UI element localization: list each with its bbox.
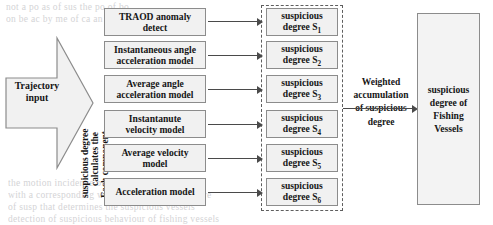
degree-box-1-line1: suspicious xyxy=(281,10,323,21)
arrow-model-6-to-degree-6 xyxy=(208,188,264,197)
model-box-3-line2: acceleration model xyxy=(117,89,194,100)
model-box-instantaneous-velocity[interactable]: Instantanute velocity model xyxy=(104,110,206,138)
degree-box-1-line2: degree S xyxy=(283,21,318,32)
model-box-traod-anomaly-detect[interactable]: TRAOD anomaly detect xyxy=(104,8,206,36)
degree-box-4-line1: suspicious xyxy=(281,112,323,123)
degree-box-1-subscript: 1 xyxy=(318,27,322,35)
suspicious-degree-box-6[interactable]: suspicious degree S6 xyxy=(266,178,338,206)
degree-box-3-subscript: 3 xyxy=(318,94,322,102)
model-box-average-angle-acceleration[interactable]: Average angle acceleration model xyxy=(104,75,206,103)
trajectory-input-line1: Trajectory xyxy=(15,80,59,91)
model-box-5-line2: model xyxy=(142,158,167,169)
model-box-1-line2: detect xyxy=(143,22,168,33)
weighted-line1: Weighted xyxy=(362,77,401,87)
output-box-label: suspicious degree of Fishing Vessels xyxy=(428,83,470,135)
figure-canvas: not a po as of sus the po of bo on be ac… xyxy=(0,0,493,225)
degree-box-3-line2: degree S xyxy=(283,88,318,99)
suspicious-degree-box-2[interactable]: suspicious degree S2 xyxy=(266,41,338,69)
weighted-line2: accumulation xyxy=(354,90,409,100)
model-box-6-line1: Acceleration model xyxy=(115,186,194,197)
suspicious-degree-box-4[interactable]: suspicious degree S4 xyxy=(266,110,338,138)
output-line4: Vessels xyxy=(434,123,462,134)
model-box-acceleration[interactable]: Acceleration model xyxy=(104,178,206,206)
degree-box-2-line1: suspicious xyxy=(281,43,323,54)
degree-box-2-line2: degree S xyxy=(283,54,318,65)
model-box-2-line1: Instantaneous angle xyxy=(114,44,196,55)
trajectory-input-line2: input xyxy=(26,92,48,103)
degree-box-5-subscript: 5 xyxy=(318,163,322,171)
degree-box-6-line2: degree S xyxy=(283,191,318,202)
arrow-model-5-to-degree-5 xyxy=(208,154,264,163)
output-line1: suspicious xyxy=(428,84,470,95)
model-box-4-line1: Instantanute xyxy=(129,113,181,124)
suspicious-degree-box-5[interactable]: suspicious degree S5 xyxy=(266,144,338,172)
model-box-average-velocity[interactable]: Average velocity model xyxy=(104,144,206,172)
arrow-model-3-to-degree-3 xyxy=(208,85,264,94)
degree-box-6-subscript: 6 xyxy=(318,197,322,205)
suspicious-degree-box-3[interactable]: suspicious degree S3 xyxy=(266,75,338,103)
degree-box-4-subscript: 4 xyxy=(318,129,322,137)
output-line2: degree of xyxy=(430,97,467,108)
model-box-instantaneous-angle-acceleration[interactable]: Instantaneous angle acceleration model xyxy=(104,41,206,69)
arrow-model-1-to-degree-1 xyxy=(208,17,264,26)
output-box-suspicious-degree-fishing-vessels[interactable]: suspicious degree of Fishing Vessels xyxy=(417,13,480,205)
arrow-weighted-to-output xyxy=(343,104,419,113)
suspicious-degree-box-1[interactable]: suspicious degree S1 xyxy=(266,8,338,36)
rotated-caption-line2: calculates the xyxy=(90,132,100,186)
model-box-2-line2: acceleration model xyxy=(117,55,194,66)
weighted-accumulation-label: Weighted accumulation of suspicious degr… xyxy=(345,76,417,129)
model-box-5-line1: Average velocity xyxy=(121,147,188,158)
trajectory-input-label: Trajectory input xyxy=(6,80,68,104)
degree-box-4-line2: degree S xyxy=(283,123,318,134)
model-box-1-line1: TRAOD anomaly xyxy=(119,11,191,22)
degree-box-5-line2: degree S xyxy=(283,157,318,168)
bleed-text-bottom-4: detection of suspicious behaviour of fis… xyxy=(8,214,219,224)
model-box-4-line2: velocity model xyxy=(126,124,185,135)
degree-box-6-line1: suspicious xyxy=(281,180,323,191)
arrow-model-4-to-degree-4 xyxy=(208,120,264,129)
degree-box-5-line1: suspicious xyxy=(281,146,323,157)
degree-box-3-line1: suspicious xyxy=(281,77,323,88)
degree-box-2-subscript: 2 xyxy=(318,60,322,68)
arrow-model-2-to-degree-2 xyxy=(208,51,264,60)
output-line3: Fishing xyxy=(433,110,463,121)
rotated-caption-line3: suspicious degree xyxy=(80,129,90,198)
model-box-3-line1: Average angle xyxy=(126,78,184,89)
weighted-line4: degree xyxy=(368,117,395,127)
